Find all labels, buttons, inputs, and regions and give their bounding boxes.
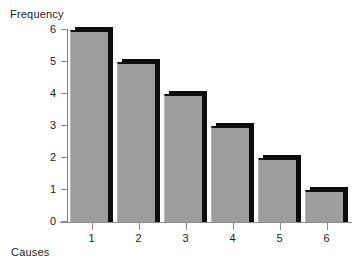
bar — [117, 62, 155, 222]
y-tick-label: 3 — [42, 119, 56, 132]
x-tick-mark — [139, 223, 140, 230]
x-axis-title: Causes — [11, 246, 50, 258]
x-tick-label: 1 — [82, 232, 102, 244]
bar-body — [211, 126, 249, 222]
bar-chart: Frequency Causes 0123456 123456 — [0, 0, 363, 271]
y-tick-mark — [61, 157, 67, 158]
x-tick-mark — [92, 223, 93, 230]
y-tick-label: 1 — [42, 183, 56, 196]
y-axis-title: Frequency — [10, 8, 64, 20]
y-tick-mark — [61, 29, 67, 30]
x-tick-label: 3 — [176, 232, 196, 244]
bar — [164, 94, 202, 222]
bar-body — [258, 158, 296, 222]
bar-body — [117, 62, 155, 222]
bar — [211, 126, 249, 222]
y-tick-label: 5 — [42, 55, 56, 68]
x-tick-mark — [327, 223, 328, 230]
x-tick-mark — [233, 223, 234, 230]
bar — [70, 30, 108, 222]
plot-area — [68, 30, 350, 222]
y-tick-label: 6 — [42, 23, 56, 36]
y-tick-label: 0 — [42, 215, 56, 228]
x-tick-label: 4 — [223, 232, 243, 244]
y-tick-label: 4 — [42, 87, 56, 100]
bar-body — [305, 190, 343, 222]
bar — [305, 190, 343, 222]
y-tick-label: 2 — [42, 151, 56, 164]
bar-body — [164, 94, 202, 222]
x-tick-mark — [186, 223, 187, 230]
x-tick-label: 2 — [129, 232, 149, 244]
y-tick-mark — [61, 189, 67, 190]
x-tick-mark — [280, 223, 281, 230]
y-tick-mark — [61, 221, 67, 222]
y-tick-mark — [61, 61, 67, 62]
y-tick-mark — [61, 125, 67, 126]
bar — [258, 158, 296, 222]
x-axis-line — [60, 222, 352, 223]
x-tick-label: 5 — [270, 232, 290, 244]
bar-body — [70, 30, 108, 222]
y-tick-mark — [61, 93, 67, 94]
x-tick-label: 6 — [317, 232, 337, 244]
